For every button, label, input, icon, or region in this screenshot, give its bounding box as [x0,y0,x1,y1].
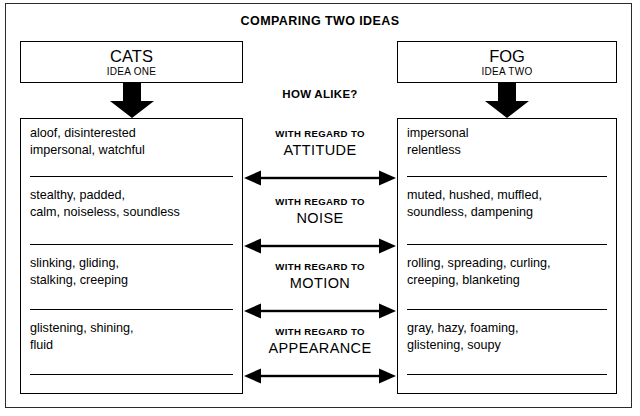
attribute-line: impersonal, watchful [30,142,233,159]
list-item: stealthy, padded, calm, noiseless, sound… [21,187,242,221]
idea-one-attribute-box: aloof, disinterested impersonal, watchfu… [20,118,243,394]
attribute-line: calm, noiseless, soundless [30,204,233,221]
idea-two-name: FOG [489,47,525,65]
comparison-aspect-label: APPEARANCE [244,340,396,356]
comparison-aspect-motion: WITH REGARD TO MOTION [244,261,396,291]
attribute-line: glistening, soupy [407,337,607,354]
idea-one-subtitle: IDEA ONE [107,66,157,78]
double-headed-arrow-icon-noise [244,238,396,254]
double-headed-arrow-icon-appearance [244,368,396,384]
idea-two-subtitle: IDEA TWO [481,66,532,78]
attribute-line: impersonal [407,125,607,142]
diagram-canvas: COMPARING TWO IDEAS CATS IDEA ONE FOG ID… [0,0,640,416]
attribute-line: glistening, shining, [30,320,233,337]
comparison-aspect-label: NOISE [244,210,396,226]
attribute-line: muted, hushed, muffled, [407,187,607,204]
comparison-aspect-column: WITH REGARD TO ATTITUDE WITH REGARD TO N… [244,118,396,394]
page-title: COMPARING TWO IDEAS [0,14,640,28]
double-headed-arrow-icon-attitude [244,170,396,186]
comparison-prefix: WITH REGARD TO [244,326,396,337]
cell-divider [30,176,233,177]
comparison-prefix: WITH REGARD TO [244,261,396,272]
comparison-prefix: WITH REGARD TO [244,128,396,139]
list-item: glistening, shining, fluid [21,320,242,354]
comparison-aspect-noise: WITH REGARD TO NOISE [244,196,396,226]
idea-two-attribute-box: impersonal relentless muted, hushed, muf… [397,118,617,394]
down-arrow-icon-left [109,83,155,119]
down-arrow-icon-right [484,83,530,119]
attribute-line: soundless, dampening [407,204,607,221]
list-item: impersonal relentless [398,125,616,159]
comparison-aspect-label: ATTITUDE [244,142,396,158]
comparison-aspect-attitude: WITH REGARD TO ATTITUDE [244,128,396,158]
attribute-line: gray, hazy, foaming, [407,320,607,337]
double-headed-arrow-icon-motion [244,303,396,319]
comparison-aspect-label: MOTION [244,275,396,291]
list-item: rolling, spreading, curling, creeping, b… [398,255,616,289]
comparison-prefix: WITH REGARD TO [244,196,396,207]
cell-divider [407,244,607,245]
attribute-line: relentless [407,142,607,159]
list-item: gray, hazy, foaming, glistening, soupy [398,320,616,354]
cell-divider [30,374,233,375]
attribute-line: rolling, spreading, curling, [407,255,607,272]
cell-divider [407,176,607,177]
attribute-line: fluid [30,337,233,354]
comparison-aspect-appearance: WITH REGARD TO APPEARANCE [244,326,396,356]
attribute-line: creeping, blanketing [407,272,607,289]
list-item: slinking, gliding, stalking, creeping [21,255,242,289]
idea-two-header-box: FOG IDEA TWO [397,41,617,83]
center-prompt: HOW ALIKE? [244,88,396,100]
list-item: aloof, disinterested impersonal, watchfu… [21,125,242,159]
idea-one-header-box: CATS IDEA ONE [20,41,243,83]
cell-divider [407,374,607,375]
cell-divider [30,244,233,245]
attribute-line: stalking, creeping [30,272,233,289]
cell-divider [30,309,233,310]
list-item: muted, hushed, muffled, soundless, dampe… [398,187,616,221]
attribute-line: slinking, gliding, [30,255,233,272]
idea-one-name: CATS [110,47,153,65]
cell-divider [407,309,607,310]
attribute-line: aloof, disinterested [30,125,233,142]
attribute-line: stealthy, padded, [30,187,233,204]
